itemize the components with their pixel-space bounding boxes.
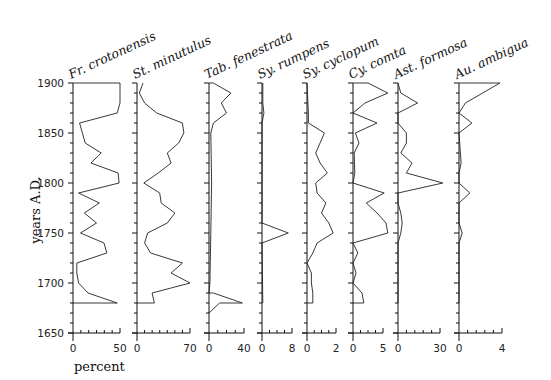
panel-sy-cyclopum: 02Sy. cyclopum [300,33,381,354]
x-tick-label: 4 [499,342,506,354]
x-tick-label: 0 [456,342,463,354]
x-tick-label: 40 [237,342,250,354]
taxon-panels: 050Fr. crotonensis070St. minutulus040Tab… [65,28,531,354]
x-tick-label: 0 [395,342,402,354]
abundance-curve [209,83,242,313]
x-axis-title: percent [74,359,126,374]
x-tick-label: 0 [70,342,77,354]
panel-au-ambigua: 04Au. ambigua [451,34,531,354]
abundance-curve [353,83,388,303]
x-tick-label: 8 [289,342,296,354]
stratigraphic-diagram: 165017001750180018501900 years A.D. perc… [0,0,551,380]
abundance-curve [398,83,443,303]
x-tick-label: 5 [380,342,387,354]
abundance-curve [459,83,500,303]
x-tick-label: 30 [433,342,446,354]
y-axis-title: years A.D. [28,176,43,244]
panel-ast-formosa: 030Ast. formosa [390,34,470,354]
x-tick-label: 0 [206,342,213,354]
x-tick-label: 2 [333,342,340,354]
x-tick-label: 0 [304,342,311,354]
y-tick-label: 1700 [37,277,64,289]
x-tick-label: 0 [134,342,141,354]
abundance-curve [73,83,120,303]
taxon-label: Tab. fenestrata [202,28,295,82]
y-tick-label: 1900 [37,77,64,89]
abundance-curve [307,83,333,303]
panel-tab-fenestrata: 040Tab. fenestrata [202,28,295,354]
panel-sy-rumpens: 08Sy. rumpens [255,35,332,354]
x-tick-label: 50 [113,342,126,354]
abundance-curve [262,83,288,303]
y-tick-label: 1850 [37,127,64,139]
x-tick-label: 0 [259,342,266,354]
abundance-curve [137,83,190,303]
y-tick-label: 1650 [37,327,64,339]
x-tick-label: 0 [350,342,357,354]
panel-st-minutulus: 070St. minutulus [130,32,213,354]
x-tick-label: 70 [183,342,196,354]
panel-cy-comta: 05Cy. comta [346,42,408,354]
